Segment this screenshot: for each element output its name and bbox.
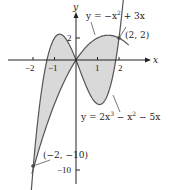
y-axis-arrow-icon bbox=[74, 12, 79, 18]
tick-label-x-neg1: −1 bbox=[48, 63, 58, 73]
tick-label-x-1: 1 bbox=[95, 63, 100, 73]
y-axis-label: y bbox=[72, 2, 79, 12]
curve2-leader bbox=[113, 95, 120, 112]
chart: −2 −1 1 2 2 −10 x y y = −x2 + 3x y = 2x3… bbox=[0, 0, 169, 190]
point-label-2-2: (2, 2) bbox=[125, 30, 149, 40]
curve1-leader bbox=[91, 22, 95, 35]
tick-label-y-neg10: −10 bbox=[57, 165, 72, 175]
tick-label-y-2: 2 bbox=[67, 33, 72, 43]
x-axis-label: x bbox=[153, 55, 158, 65]
x-axis-arrow-icon bbox=[145, 58, 151, 63]
tick-label-x-2: 2 bbox=[118, 63, 123, 73]
curve1-label: y = −x2 + 3x bbox=[85, 9, 145, 21]
tick-label-x-neg2: −2 bbox=[25, 63, 35, 73]
point-label-neg2-neg10: (−2, −10) bbox=[43, 150, 88, 160]
